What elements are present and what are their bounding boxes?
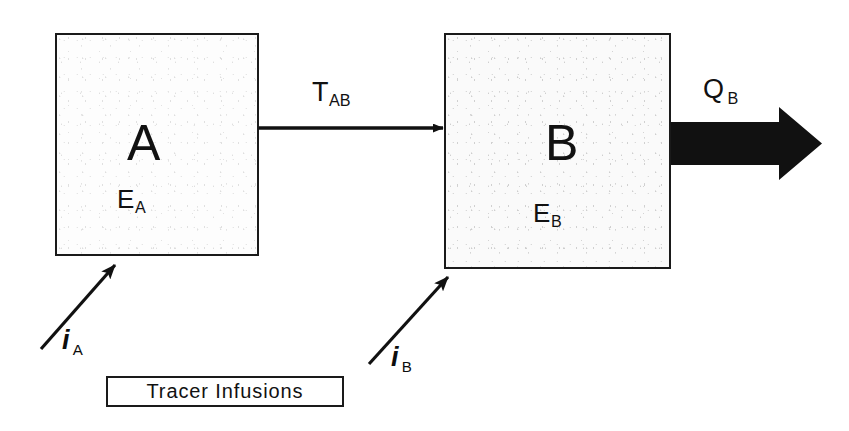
ea-subscript: A: [135, 198, 146, 216]
qb-base: Q: [703, 74, 724, 104]
ib-base: i: [391, 342, 399, 372]
transfer-flow-label-tab: TAB: [312, 79, 350, 106]
compartment-a-content-label: EA: [117, 186, 145, 212]
tab-base: T: [312, 77, 329, 107]
infusion-label-ia: iA: [62, 327, 80, 354]
outflow-arrow-qb: [671, 107, 822, 180]
tracer-infusions-caption-box: Tracer Infusions: [106, 376, 344, 407]
eb-subscript: B: [551, 212, 562, 230]
infusion-label-ib: iB: [391, 344, 409, 371]
ea-base: E: [117, 184, 134, 214]
eb-base: E: [533, 198, 550, 228]
outflow-label-qb: QB: [703, 76, 735, 103]
ia-subscript: A: [73, 341, 83, 358]
compartment-a-label: A: [127, 118, 160, 168]
ia-base: i: [62, 325, 70, 355]
diagram-canvas: A EA B EB TAB QB iA iB Tracer Infusions: [0, 0, 849, 431]
tracer-infusions-caption-text: Tracer Infusions: [146, 380, 303, 403]
compartment-b-label: B: [545, 118, 578, 168]
ib-subscript: B: [402, 358, 412, 375]
qb-subscript: B: [728, 89, 739, 107]
tab-subscript: AB: [329, 91, 351, 109]
compartment-b-content-label: EB: [533, 200, 561, 226]
